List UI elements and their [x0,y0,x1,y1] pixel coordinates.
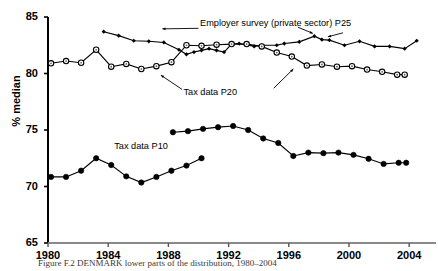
y-tick-label: 70 [12,180,38,192]
annotation-label-0: Employer survey (private sector) P25 [200,18,351,28]
figure-container: % median 6570758085 19801984198819921996… [0,0,438,271]
y-tick-label: 75 [12,123,38,135]
y-tick-label: 65 [12,236,38,248]
series-2 [48,156,204,186]
series-1 [48,41,407,77]
axes [44,17,436,247]
series-3 [170,123,409,166]
figure-caption: Figure F.2 DENMARK lower parts of the di… [38,258,438,270]
series-0 [102,30,419,57]
data-series-group [48,30,419,186]
annotation-label-1: Tax data P20 [183,87,237,97]
y-tick-label: 80 [12,67,38,79]
y-tick-label: 85 [12,10,38,22]
chart-canvas [0,0,438,271]
annotation-label-2: Tax data P10 [114,141,168,151]
